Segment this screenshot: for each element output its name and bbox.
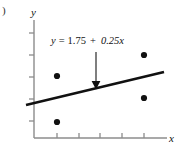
data-point [54, 73, 60, 79]
x-axis-ticks [57, 133, 144, 138]
data-point [54, 119, 60, 125]
x-axis-label: x [168, 132, 174, 144]
equation-plus: + [90, 35, 96, 46]
y-axis-ticks [29, 33, 34, 121]
chart-canvas: ) y x [0, 0, 178, 154]
equation-text: y=1.75+0.25x [50, 35, 124, 46]
equation-intercept: 1.75 [68, 35, 86, 46]
data-point [141, 95, 147, 101]
equation-lhs: y [50, 35, 56, 46]
equation-slope-term: 0.25x [101, 35, 124, 46]
data-point [141, 52, 147, 58]
y-axis-label: y [30, 6, 36, 18]
equation-annotation: y=1.75+0.25x [50, 35, 124, 46]
annotation-arrow [92, 52, 101, 90]
equation-equals: = [59, 35, 65, 46]
list-marker: ) [2, 4, 6, 17]
scatter-plot-figure: ) y x [0, 0, 178, 154]
